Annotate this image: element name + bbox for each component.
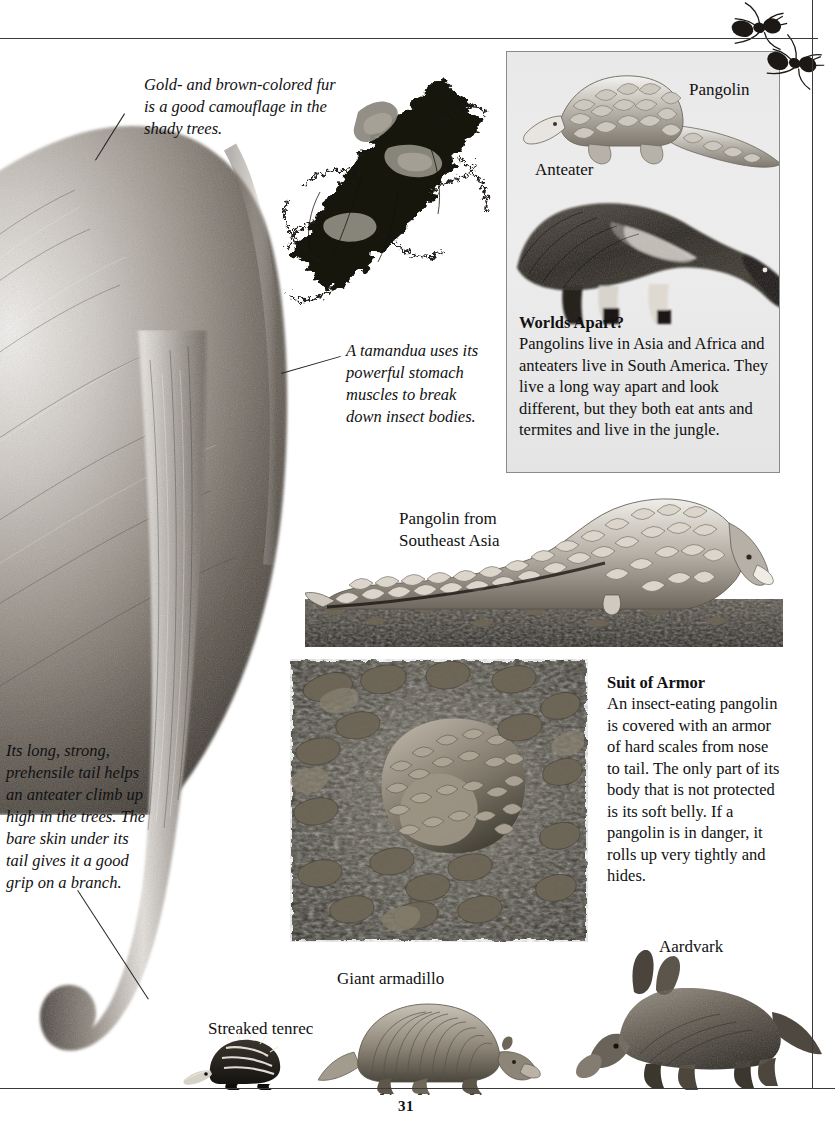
anteater-tail	[30, 330, 280, 1090]
giant-anteater-photo	[507, 182, 780, 327]
page-number: 31	[0, 1098, 812, 1115]
suit-of-armor-text: Suit of Armor An insect-eating pangolin …	[607, 672, 785, 886]
page-rule-right	[812, 0, 813, 1088]
worlds-apart-info-box: Pangolin Anteater	[506, 51, 780, 473]
suit-of-armor-heading: Suit of Armor	[607, 672, 785, 693]
ant-illustrations	[726, 0, 835, 96]
aardvark-illustration	[560, 950, 822, 1090]
suit-of-armor-body: An insect-eating pangolin is covered wit…	[607, 694, 779, 885]
page-rule-bottom	[0, 1088, 835, 1089]
rolled-pangolin-in-leaves-photo	[290, 659, 588, 942]
book-page: Gold- and brown-colored fur is a good ca…	[0, 0, 835, 1143]
giant-armadillo-illustration	[318, 990, 548, 1095]
caption-prehensile-tail: Its long, strong, prehensile tail helps …	[6, 740, 146, 894]
page-rule-top	[0, 38, 818, 39]
caption-fur-camouflage: Gold- and brown-colored fur is a good ca…	[144, 74, 344, 140]
caption-tamandua-stomach: A tamandua uses its powerful stomach mus…	[346, 340, 496, 428]
worlds-apart-heading: Worlds Apart?	[519, 312, 771, 333]
worlds-apart-text: Worlds Apart? Pangolins live in Asia and…	[519, 312, 771, 441]
label-giant-armadillo: Giant armadillo	[337, 968, 444, 990]
streaked-tenrec-illustration	[182, 1028, 288, 1090]
pangolin-walking-photo	[305, 487, 783, 647]
worlds-apart-body: Pangolins live in Asia and Africa and an…	[519, 334, 768, 439]
label-anteater: Anteater	[535, 159, 594, 181]
